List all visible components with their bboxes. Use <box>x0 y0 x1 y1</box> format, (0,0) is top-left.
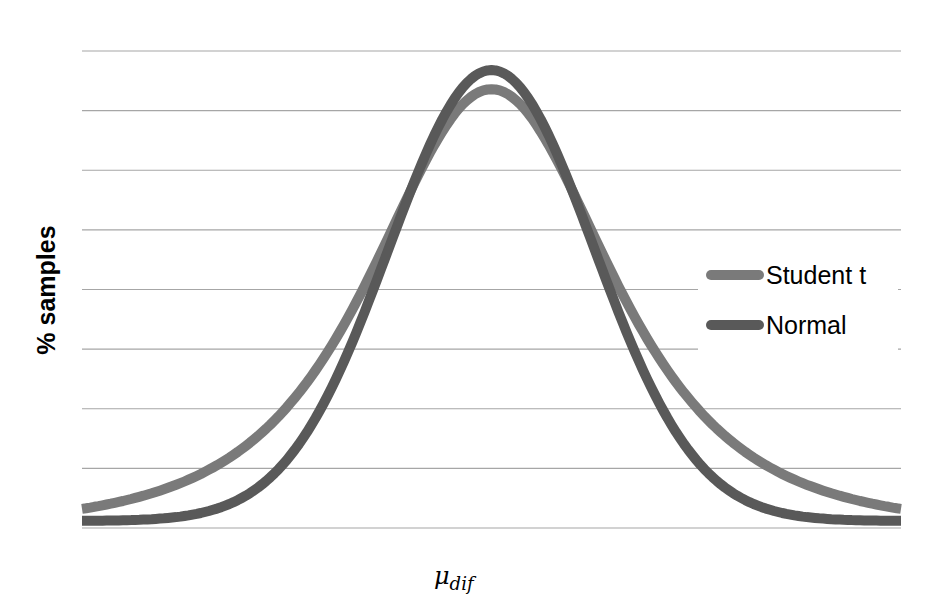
y-axis-label: % samples <box>32 225 61 354</box>
legend: Student t Normal <box>698 252 898 352</box>
legend-swatch-student-t <box>706 270 764 280</box>
x-axis-label: μdif <box>434 562 474 594</box>
legend-swatch-normal <box>706 320 764 330</box>
legend-item-student-t: Student t <box>706 260 866 290</box>
legend-label: Normal <box>766 311 847 340</box>
legend-item-normal: Normal <box>706 310 847 340</box>
legend-label: Student t <box>766 261 866 290</box>
